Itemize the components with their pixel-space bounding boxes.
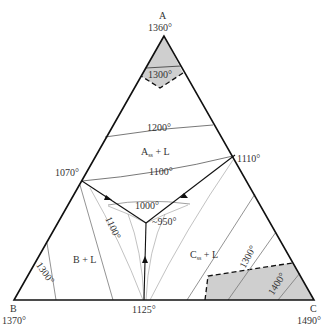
binary-eutectic-ab-label: 1070°: [55, 168, 79, 178]
arrow-icon-bc: [142, 256, 148, 263]
vertex-b-temp: 1370°: [2, 316, 26, 326]
ternary-eutectic-label: ~950°: [152, 217, 176, 227]
region-c-label: Css + L: [190, 250, 218, 263]
vertex-a-temp: 1360°: [148, 23, 172, 33]
isotherm-label-a-1300: 1300°: [148, 70, 172, 80]
vertex-c-label: C: [310, 304, 317, 314]
isotherm-label-center-1000: 1000°: [135, 201, 159, 211]
binary-eutectic-ac-label: 1110°: [237, 154, 260, 164]
isotherm-label-a-1200: 1200°: [147, 123, 171, 133]
binary-eutectic-bc-label: 1125°: [132, 305, 156, 315]
region-a-label: Ass + L: [141, 147, 170, 160]
region-b-label: B + L: [73, 255, 96, 265]
isotherm-label-a-1100: 1100°: [149, 167, 173, 177]
isotherm-center-down: [128, 214, 144, 300]
isotherm-b-1100: [80, 185, 113, 300]
vertex-a-label: A: [159, 11, 166, 21]
vertex-b-label: B: [10, 304, 17, 314]
vertex-c-temp: 1490°: [297, 316, 321, 326]
